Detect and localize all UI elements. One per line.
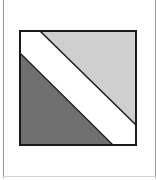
- square-diagram: [0, 0, 157, 180]
